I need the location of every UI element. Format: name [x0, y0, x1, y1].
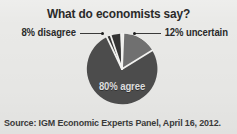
uncertain-leader-line: [135, 33, 161, 34]
source-note: Source: IGM Economic Experts Panel, Apri…: [4, 117, 221, 128]
disagree-leader-dot: [101, 32, 104, 35]
page-title: What do economists say?: [6, 7, 231, 21]
pie-chart-svg: [86, 33, 158, 105]
pie-callout-label-disagree: 8% disagree: [21, 27, 75, 38]
pie-callout-label-uncertain: 12% uncertain: [165, 27, 228, 38]
pie-chart: [86, 33, 158, 105]
disagree-leader-line: [80, 33, 102, 34]
uncertain-leader-dot: [133, 32, 136, 35]
pie-slice-label-agree: 80% agree: [90, 81, 155, 92]
figure-container: What do economists say? 80% agree 8% dis…: [0, 0, 237, 134]
